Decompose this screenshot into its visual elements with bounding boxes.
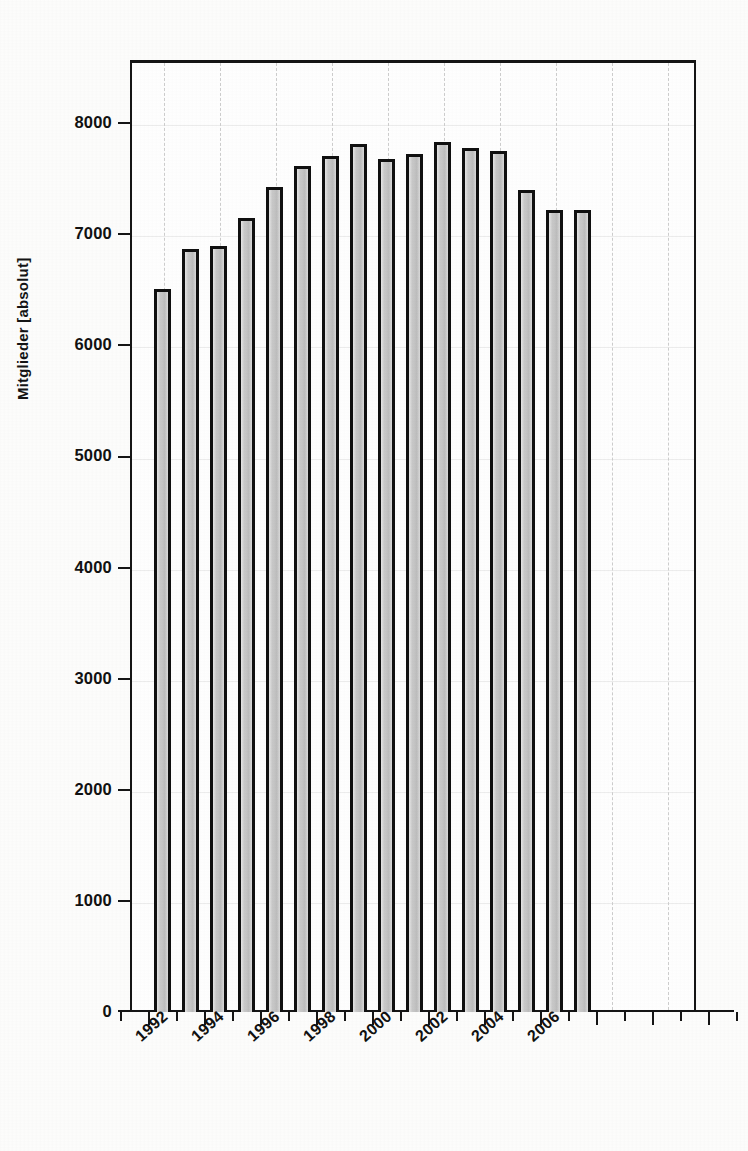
- x-tick-mark: [652, 1012, 654, 1025]
- bar-shading: [577, 213, 588, 1012]
- x-tick-mark: [596, 1012, 598, 1025]
- y-tick-label-8000: 8000: [36, 113, 112, 132]
- bar-shading: [157, 292, 168, 1012]
- bar-2001: [406, 154, 423, 1012]
- bar-shading: [437, 145, 448, 1012]
- y-tick-mark-7000: [118, 233, 130, 235]
- x-tick-label-2000: 2000: [356, 1007, 395, 1045]
- bar-shading: [521, 193, 532, 1012]
- x-tick-mark: [708, 1012, 710, 1025]
- x-tick-mark: [456, 1012, 458, 1021]
- bar-1998: [322, 156, 339, 1012]
- x-tick-mark: [344, 1012, 346, 1021]
- y-axis-title: Mitglieder [absolut]: [14, 100, 44, 400]
- bar-shading: [465, 151, 476, 1012]
- y-tick-mark-5000: [118, 456, 130, 458]
- x-tick-label-1992: 1992: [132, 1007, 171, 1045]
- y-tick-label-0: 0: [36, 1002, 112, 1021]
- x-tick-mark: [232, 1012, 234, 1021]
- chart-figure: Mitglieder [absolut] 8000 7000 6000 5000…: [0, 0, 748, 1151]
- x-tick-label-2002: 2002: [412, 1007, 451, 1045]
- bar-shading: [241, 221, 252, 1012]
- bar-2005: [518, 190, 535, 1012]
- y-tick-mark-4000: [118, 567, 130, 569]
- bar-2006: [546, 210, 563, 1012]
- bar-2004: [490, 151, 507, 1012]
- x-tick-label-1994: 1994: [188, 1007, 227, 1045]
- x-tick-mark: [680, 1012, 682, 1021]
- bar-1993: [182, 249, 199, 1012]
- bar-shading: [549, 213, 560, 1012]
- bar-1994: [210, 246, 227, 1012]
- bar-shading: [409, 157, 420, 1012]
- bar-1996: [266, 187, 283, 1012]
- y-tick-label-7000: 7000: [36, 224, 112, 243]
- y-tick-label-2000: 2000: [36, 780, 112, 799]
- x-tick-mark: [568, 1012, 570, 1021]
- bar-shading: [493, 154, 504, 1012]
- y-tick-mark-1000: [118, 900, 130, 902]
- x-tick-label-1998: 1998: [300, 1007, 339, 1045]
- x-tick-mark: [400, 1012, 402, 1021]
- y-tick-label-6000: 6000: [36, 335, 112, 354]
- bar-shading: [381, 162, 392, 1012]
- bar-1997: [294, 166, 311, 1012]
- bar-2003: [462, 148, 479, 1012]
- x-tick-mark: [736, 1012, 738, 1021]
- x-tick-mark: [624, 1012, 626, 1021]
- x-tick-label-2004: 2004: [468, 1007, 507, 1045]
- y-tick-mark-8000: [118, 122, 130, 124]
- bar-shading: [353, 147, 364, 1012]
- bar-2007: [574, 210, 591, 1012]
- bar-shading: [325, 159, 336, 1012]
- bar-2000: [378, 159, 395, 1012]
- bar-shading: [213, 249, 224, 1012]
- y-tick-mark-3000: [118, 678, 130, 680]
- bar-1992: [154, 289, 171, 1012]
- x-tick-label-2006: 2006: [524, 1007, 563, 1045]
- bar-1995: [238, 218, 255, 1012]
- bar-shading: [185, 252, 196, 1012]
- y-tick-mark-6000: [118, 344, 130, 346]
- x-axis-extension: [696, 1010, 734, 1012]
- bar-shading: [297, 169, 308, 1012]
- bar-series: [130, 60, 696, 1012]
- bar-shading: [269, 190, 280, 1012]
- x-tick-mark: [176, 1012, 178, 1021]
- x-tick-mark: [512, 1012, 514, 1021]
- x-tick-label-1996: 1996: [244, 1007, 283, 1045]
- y-tick-label-4000: 4000: [36, 558, 112, 577]
- x-tick-mark: [288, 1012, 290, 1021]
- y-tick-label-1000: 1000: [36, 891, 112, 910]
- y-tick-label-3000: 3000: [36, 669, 112, 688]
- bar-2002: [434, 142, 451, 1012]
- y-tick-label-5000: 5000: [36, 446, 112, 465]
- bar-1999: [350, 144, 367, 1012]
- x-tick-mark: [120, 1012, 122, 1021]
- y-tick-mark-2000: [118, 789, 130, 791]
